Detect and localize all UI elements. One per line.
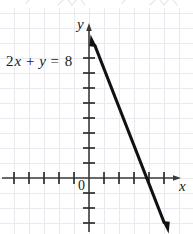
equation-annotation: 2x + y = 8 <box>5 54 73 69</box>
equation-constant: 8 <box>64 53 74 69</box>
equation-equals-sign: = <box>50 53 60 69</box>
equation-var-y: y <box>39 53 46 69</box>
y-axis <box>86 23 92 232</box>
graph-figure: y x 0 2x + y = 8 <box>0 0 193 234</box>
y-axis-label: y <box>77 17 84 32</box>
origin-label: 0 <box>78 179 85 193</box>
coordinate-plane <box>0 0 193 234</box>
equation-coefficient: 2 <box>5 53 15 69</box>
plotted-line-2x-plus-y-equals-8 <box>89 35 169 234</box>
grid-lines <box>0 8 193 234</box>
equation-var-x: x <box>15 53 22 69</box>
x-axis-label: x <box>179 179 186 194</box>
equation-plus-sign: + <box>25 53 35 69</box>
